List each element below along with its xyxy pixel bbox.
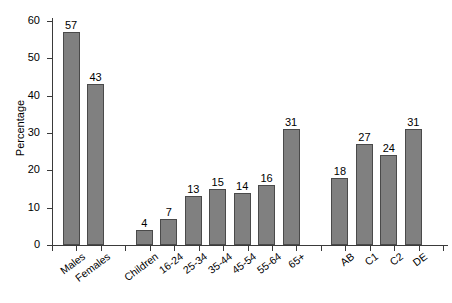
x-axis-tick [125, 246, 126, 251]
bar-value-label: 15 [212, 176, 224, 188]
y-axis-tick: 30 [47, 133, 52, 134]
y-axis-tick: 10 [47, 208, 52, 209]
x-axis-tick [223, 246, 224, 251]
x-axis-tick [76, 246, 77, 251]
x-axis-tick [52, 246, 53, 251]
y-axis-tick-label: 40 [28, 89, 40, 102]
y-axis-tick-label: 20 [28, 163, 40, 176]
bar: 57 [63, 32, 80, 245]
y-axis-tick: 20 [47, 170, 52, 171]
bar-value-label: 43 [89, 71, 101, 83]
x-axis-tick [296, 246, 297, 251]
x-axis-tick [443, 246, 444, 251]
bar-value-label: 14 [236, 180, 248, 192]
x-axis-tick [345, 246, 346, 251]
bar: 15 [209, 189, 226, 245]
x-axis-tick [101, 246, 102, 251]
y-axis-line [52, 18, 53, 246]
y-axis-tick: 50 [47, 58, 52, 59]
y-axis-tick-label: 10 [28, 201, 40, 214]
bar: 7 [160, 219, 177, 245]
x-axis-tick [321, 246, 322, 251]
y-axis-tick-label: 0 [34, 238, 40, 251]
bar: 4 [136, 230, 153, 245]
bar: 27 [356, 144, 373, 245]
bar: 31 [283, 129, 300, 245]
bar-value-label: 57 [65, 19, 77, 31]
y-axis-title: Percentage [13, 13, 27, 243]
plot-area: 0102030405060 574347131514163118272431 [52, 18, 448, 246]
bar-value-label: 18 [334, 165, 346, 177]
bar-value-label: 7 [166, 206, 172, 218]
y-axis-tick: 40 [47, 96, 52, 97]
bar-value-label: 4 [141, 217, 147, 229]
y-axis-tick-label: 50 [28, 51, 40, 64]
bar-chart: Percentage 0102030405060 574347131514163… [0, 0, 452, 303]
x-axis-line [52, 245, 448, 246]
x-axis-tick [394, 246, 395, 251]
bar: 24 [380, 155, 397, 245]
bar-value-label: 24 [383, 142, 395, 154]
bar: 18 [331, 178, 348, 245]
y-axis-tick-label: 30 [28, 126, 40, 139]
x-axis-tick [174, 246, 175, 251]
bar: 16 [258, 185, 275, 245]
bar-value-label: 27 [358, 131, 370, 143]
y-axis-tick: 60 [47, 21, 52, 22]
bar: 14 [234, 193, 251, 245]
bar: 43 [87, 84, 104, 245]
bar: 13 [185, 196, 202, 245]
y-axis-tick-label: 60 [28, 14, 40, 27]
x-axis-tick [272, 246, 273, 251]
bar-value-label: 31 [407, 116, 419, 128]
bar-value-label: 16 [260, 172, 272, 184]
bar: 31 [405, 129, 422, 245]
bar-value-label: 31 [285, 116, 297, 128]
bar-value-label: 13 [187, 183, 199, 195]
